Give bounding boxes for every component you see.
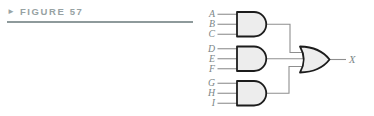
and-gate-1 — [237, 12, 266, 37]
figure-panel: ► FIGURE 57 A — [0, 0, 374, 116]
and-gate-3 — [237, 81, 266, 106]
wire-and1-to-or — [266, 24, 305, 52]
input-label-i: I — [211, 97, 216, 108]
input-labels: A B C D E F G H I — [207, 8, 216, 108]
input-label-c: C — [208, 28, 215, 39]
or-gate — [300, 47, 330, 73]
input-label-f: F — [208, 63, 216, 74]
wire-and3-to-or — [266, 67, 305, 94]
and-gate-2 — [237, 47, 266, 72]
output-label-x: X — [348, 54, 356, 65]
logic-circuit-diagram: A B C D E F G H I X — [0, 0, 374, 116]
input-wires — [218, 14, 239, 103]
